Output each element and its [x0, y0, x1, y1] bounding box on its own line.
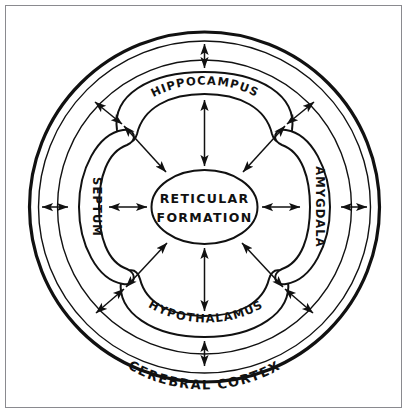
limbic-system-diagram: CEREBRAL CORTEX HIPPOCAMPUS HYPOTHALAMUS…	[0, 0, 409, 415]
arrow-lower-right-junction-cortex	[285, 289, 313, 313]
arrow-upper-right-junction-reticular	[243, 126, 285, 172]
reticular-formation-shape	[152, 170, 258, 244]
arrow-lower-left-junction-reticular	[126, 243, 167, 287]
figure-page: CEREBRAL CORTEX HIPPOCAMPUS HYPOTHALAMUS…	[0, 0, 409, 415]
reticular-formation-label-line1: RETICULAR	[160, 191, 250, 206]
arrow-lower-right-junction-reticular	[242, 243, 283, 287]
arrow-lower-left-junction-cortex	[96, 289, 124, 313]
arrow-upper-left-junction-reticular	[124, 126, 166, 172]
amygdala-label: AMYGDALA	[313, 166, 327, 248]
reticular-formation-label-line2: FORMATION	[157, 210, 253, 225]
septum-label: SEPTUM	[90, 177, 104, 237]
